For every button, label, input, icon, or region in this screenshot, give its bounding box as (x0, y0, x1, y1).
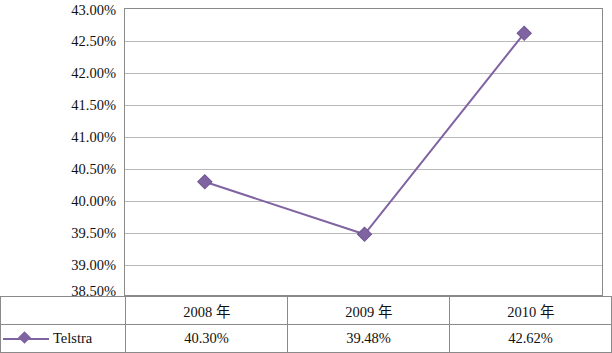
y-tick-label: 41.00% (8, 130, 116, 144)
table-corner-cell (1, 297, 126, 325)
y-tick-label: 39.50% (8, 226, 116, 240)
y-tick-label: 40.00% (8, 194, 116, 208)
table-row: Telstra 40.30% 39.48% 42.62% (1, 325, 612, 353)
y-tick-label: 39.00% (8, 258, 116, 272)
legend-label: Telstra (53, 331, 92, 346)
table-row-header: 2008 年 2009 年 2010 年 (1, 297, 612, 325)
y-tick-label: 42.50% (8, 34, 116, 48)
table-cell: 40.30% (126, 325, 288, 353)
table-header-cell: 2009 年 (288, 297, 450, 325)
table-header-cell: 2010 年 (450, 297, 612, 325)
legend-line-icon (3, 338, 49, 340)
y-tick-label: 42.00% (8, 66, 116, 80)
y-tick-label: 40.50% (8, 162, 116, 176)
data-table: 2008 年 2009 年 2010 年 Telstra 40.30% 39.4… (0, 296, 612, 352)
plot-area (124, 8, 603, 296)
y-tick-label: 43.00% (8, 3, 116, 17)
y-tick-label: 41.50% (8, 98, 116, 112)
table-header-cell: 2008 年 (126, 297, 288, 325)
diamond-marker-icon (18, 331, 31, 344)
series-telstra (125, 9, 604, 297)
table-cell: 42.62% (450, 325, 612, 353)
legend-entry: Telstra (1, 325, 126, 353)
table-cell: 39.48% (288, 325, 450, 353)
